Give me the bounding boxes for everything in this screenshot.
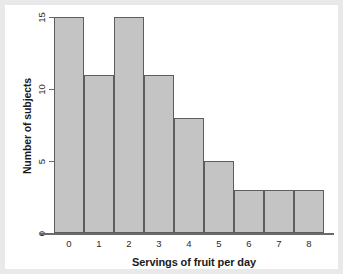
bar-3: [144, 75, 174, 233]
x-tick-label-3: 3: [149, 238, 169, 249]
x-axis-title: Servings of fruit per day: [54, 256, 334, 268]
y-axis-title: Number of subjects: [21, 51, 33, 201]
bar-1: [84, 75, 114, 233]
y-tick-label-10: 10: [36, 77, 47, 103]
x-tick-label-5: 5: [209, 238, 229, 249]
x-tick-label-4: 4: [179, 238, 199, 249]
x-tick-label-8: 8: [299, 238, 319, 249]
x-tick-label-1: 1: [89, 238, 109, 249]
bar-4: [174, 118, 204, 233]
bar-8: [294, 190, 324, 233]
plot-area: Number of subjects 0 5 10 15 0 1 2: [10, 10, 343, 274]
x-axis-line: [40, 233, 334, 235]
bar-7: [264, 190, 294, 233]
histogram-figure: Number of subjects 0 5 10 15 0 1 2: [0, 0, 343, 274]
x-tick-label-6: 6: [239, 238, 259, 249]
x-tick-label-0: 0: [59, 238, 79, 249]
y-tick-label-15: 15: [36, 5, 47, 31]
figure-frame: Number of subjects 0 5 10 15 0 1 2: [0, 0, 343, 274]
bar-5: [204, 161, 234, 233]
bar-6: [234, 190, 264, 233]
y-tick-label-5: 5: [36, 149, 47, 175]
bar-2: [114, 17, 144, 233]
x-tick-label-2: 2: [119, 238, 139, 249]
bar-0: [54, 17, 84, 233]
x-tick-label-7: 7: [269, 238, 289, 249]
